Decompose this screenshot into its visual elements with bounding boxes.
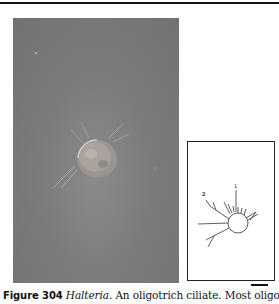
genus-name: Halteria — [66, 289, 109, 301]
figure-caption: Figure 304 Halteria. An oligotrich cilia… — [3, 289, 279, 302]
caption-text: . An oligotrich ciliate. Most oligotrich… — [109, 289, 279, 301]
inset-diagram: 1 2 — [187, 141, 275, 281]
micrograph-photo — [13, 18, 179, 283]
figure-label: Figure 304 — [3, 290, 63, 301]
ciliate-cell-image — [13, 18, 179, 283]
diagram-label-1: 1 — [234, 183, 237, 189]
ciliate-line-drawing: 1 2 — [188, 142, 276, 282]
top-rule — [0, 2, 279, 4]
diagram-label-2: 2 — [202, 191, 206, 197]
scale-bar — [251, 284, 268, 286]
